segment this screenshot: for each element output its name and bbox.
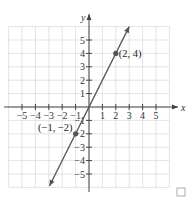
point-label: (2, 4) (119, 48, 142, 60)
x-tick-label: −3 (43, 110, 54, 121)
y-tick-label: −3 (74, 142, 85, 153)
x-tick-label: 1 (100, 110, 105, 121)
y-tick-label: 4 (80, 48, 85, 59)
y-tick-label: −5 (74, 169, 85, 180)
x-axis-arrow-icon (172, 105, 178, 110)
x-tick-label: 5 (154, 110, 159, 121)
y-tick-label: 2 (80, 75, 85, 86)
plotted-points: (2, 4)(−1, −2) (38, 48, 142, 136)
y-axis-label: y (80, 12, 86, 23)
point-label: (−1, −2) (38, 122, 73, 134)
point-marker (73, 131, 78, 136)
point-marker (113, 51, 118, 56)
x-tick-label: 4 (140, 110, 145, 121)
x-tick-label: 3 (127, 110, 132, 121)
corner-box-icon (177, 188, 185, 196)
x-axis-label: x (180, 102, 186, 113)
x-tick-label: −5 (17, 110, 28, 121)
y-tick-label: 5 (80, 35, 85, 46)
y-tick-label: 3 (80, 61, 85, 72)
x-tick-label: −2 (57, 110, 68, 121)
y-axis-arrow-icon (87, 14, 92, 20)
x-tick-label: 2 (113, 110, 118, 121)
axes: xy (4, 12, 186, 192)
y-tick-label: 1 (80, 88, 85, 99)
y-tick-label: −4 (74, 155, 85, 166)
x-tick-label: −4 (30, 110, 41, 121)
coordinate-plane: xy −5−4−3−2−112345−5−4−3−2−112345 (2, 4)… (0, 0, 187, 198)
